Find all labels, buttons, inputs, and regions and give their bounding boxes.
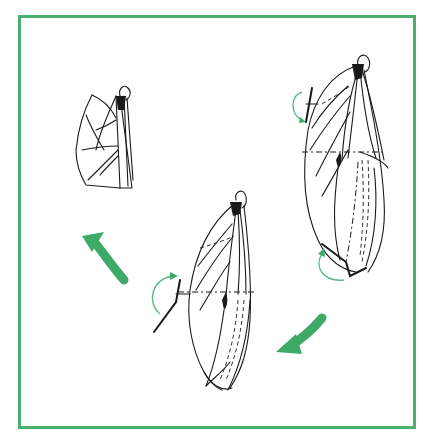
diagram-canvas — [0, 0, 423, 437]
stage-1-rolled-cone — [302, 55, 388, 276]
stage-2-rolled-cone — [154, 191, 254, 390]
diagram-svg — [0, 0, 423, 437]
stage-1-fold-indicator-bottom — [318, 248, 344, 280]
stage-1-fold-indicator-top — [293, 92, 306, 123]
stage-3-folded-cone — [76, 86, 133, 188]
flow-arrow-stage-2-to-3 — [82, 232, 124, 280]
stage-2-fold-indicator — [152, 272, 178, 314]
flow-arrow-stage-1-to-2 — [276, 318, 322, 354]
